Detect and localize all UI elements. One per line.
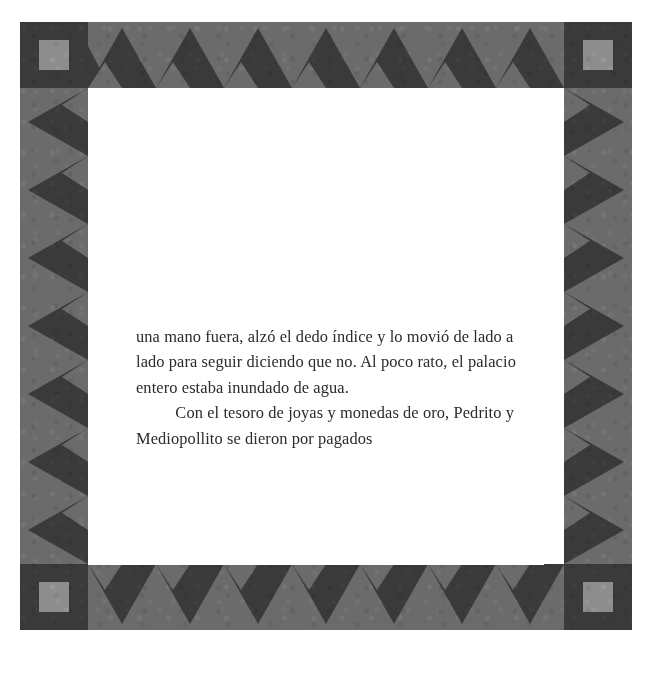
frame-edge-top bbox=[88, 22, 564, 88]
corner-block-top-right bbox=[564, 22, 632, 88]
paragraph-1: una mano fuera, alzó el dedo índice y lo… bbox=[136, 324, 530, 400]
corner-block-bottom-right bbox=[564, 564, 632, 630]
body-text-block: una mano fuera, alzó el dedo índice y lo… bbox=[136, 324, 530, 451]
corner-block-bottom-left bbox=[20, 564, 88, 630]
frame-edge-bottom bbox=[88, 564, 564, 630]
corner-inner-square bbox=[39, 40, 69, 70]
corner-inner-square bbox=[583, 40, 613, 70]
frame-edge-right bbox=[564, 88, 632, 564]
corner-inner-square bbox=[583, 582, 613, 612]
triangles-down-icon bbox=[88, 564, 564, 630]
page-content-area: una mano fuera, alzó el dedo índice y lo… bbox=[88, 88, 544, 565]
corner-inner-square bbox=[39, 582, 69, 612]
book-page: una mano fuera, alzó el dedo índice y lo… bbox=[0, 0, 654, 682]
triangles-left-icon bbox=[20, 88, 88, 564]
paragraph-2: Con el tesoro de joyas y monedas de oro,… bbox=[136, 400, 530, 451]
corner-block-top-left bbox=[20, 22, 88, 88]
triangles-up-icon bbox=[88, 22, 564, 88]
triangles-right-icon bbox=[564, 88, 632, 564]
frame-edge-left bbox=[20, 88, 88, 564]
